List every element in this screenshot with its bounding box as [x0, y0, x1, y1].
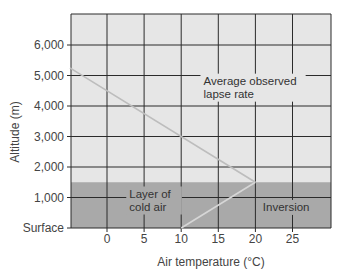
annotation-text: cold air	[129, 201, 166, 213]
x-tick-label: 25	[286, 232, 300, 246]
lapse-rate-chart: Surface1,0002,0003,0004,0005,0006,000 05…	[0, 0, 345, 277]
annotation: Layer ofcold air	[126, 187, 182, 215]
x-tick-label: 20	[249, 232, 263, 246]
annotation: Average observedlapse rate	[200, 74, 305, 102]
annotation-text: lapse rate	[203, 88, 254, 100]
annotation: Inversion	[260, 200, 322, 215]
y-tick-label: 3,000	[34, 130, 64, 144]
x-tick-label: 15	[212, 232, 226, 246]
y-tick-label: 4,000	[34, 99, 64, 113]
annotation-text: Inversion	[263, 201, 310, 213]
y-tick-label: 2,000	[34, 160, 64, 174]
annotation-text: Average observed	[203, 75, 296, 87]
plot-area	[67, 14, 331, 232]
y-axis-label: Altitude (m)	[8, 101, 22, 162]
x-axis-label: Air temperature (°C)	[157, 255, 265, 269]
x-axis-ticks: 0510152025	[104, 232, 300, 246]
y-tick-label: 6,000	[34, 38, 64, 52]
x-tick-label: 10	[175, 232, 189, 246]
y-axis-ticks: Surface1,0002,0003,0004,0005,0006,000	[23, 38, 65, 235]
y-tick-label: Surface	[23, 221, 65, 235]
x-tick-label: 5	[141, 232, 148, 246]
y-tick-label: 5,000	[34, 69, 64, 83]
y-tick-label: 1,000	[34, 191, 64, 205]
x-tick-label: 0	[104, 232, 111, 246]
annotation-text: Layer of	[129, 188, 171, 200]
